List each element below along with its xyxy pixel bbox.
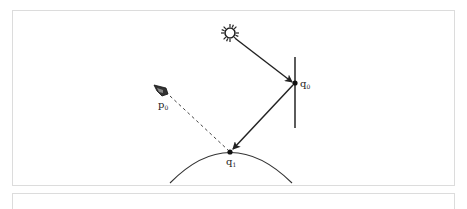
point-q1: [227, 149, 232, 154]
eye-icon: [154, 85, 168, 96]
label-q1: q1: [226, 156, 236, 168]
ray-q0-to-q1: [233, 85, 293, 149]
light-path-diagram: q0 q1 p0: [0, 0, 467, 209]
label-p0: p0: [158, 99, 168, 111]
point-q0: [292, 80, 297, 85]
label-q0: q0: [300, 78, 310, 90]
view-ray-dashed: [170, 96, 228, 150]
ray-light-to-q0: [236, 39, 292, 82]
